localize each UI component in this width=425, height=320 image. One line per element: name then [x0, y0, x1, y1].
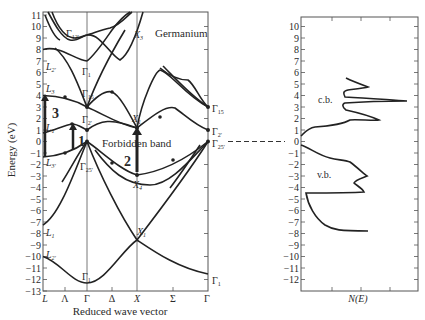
svg-text:Γ25': Γ25'	[80, 161, 93, 173]
svg-text:L2': L2'	[45, 61, 57, 73]
svg-text:−13: −13	[25, 286, 41, 297]
svg-text:1: 1	[78, 134, 85, 149]
band-x-tick-labels: L Λ Γ Δ X Σ Γ	[41, 293, 210, 304]
svg-text:Γ: Γ	[204, 293, 210, 304]
band-structure-panel: 11 10 9 8 7 6 5 4 3 2 1 0 −1 −2 −3 −4 −5…	[5, 10, 225, 318]
svg-text:1: 1	[36, 125, 41, 136]
band-y-axis-label: Energy (eV)	[5, 122, 18, 177]
svg-text:−4: −4	[30, 182, 41, 193]
dos-curves	[301, 78, 407, 231]
svg-text:L1: L1	[45, 122, 55, 134]
svg-text:−11: −11	[26, 263, 41, 274]
svg-text:−12: −12	[25, 274, 41, 285]
density-of-states-panel: 10 9 8 7 6 5 4 3 2 1 0 −1 −2 −3 −4 −5 −6…	[283, 17, 418, 305]
svg-text:Γ2': Γ2'	[212, 126, 222, 138]
svg-text:−12: −12	[283, 274, 299, 285]
svg-text:L2': L2'	[45, 249, 57, 261]
svg-text:−11: −11	[284, 263, 299, 274]
svg-text:Γ1: Γ1	[82, 271, 91, 283]
svg-text:Σ: Σ	[170, 293, 176, 304]
svg-text:Λ: Λ	[61, 293, 69, 304]
svg-text:6: 6	[294, 67, 299, 78]
svg-text:9: 9	[294, 33, 299, 44]
svg-text:−2: −2	[30, 159, 41, 170]
band-x-axis-label: Reduced wave vector	[73, 305, 168, 317]
svg-text:−2: −2	[288, 159, 299, 170]
svg-text:L3': L3'	[45, 157, 57, 169]
svg-text:5: 5	[36, 79, 41, 90]
svg-text:−10: −10	[25, 251, 41, 262]
svg-text:−9: −9	[288, 240, 299, 251]
svg-text:3: 3	[294, 102, 299, 113]
svg-text:7: 7	[36, 56, 41, 67]
svg-text:−8: −8	[288, 228, 299, 239]
conduction-band-label: c.b.	[318, 94, 332, 105]
svg-text:Γ: Γ	[84, 293, 90, 304]
svg-text:−1: −1	[288, 148, 299, 159]
svg-text:4: 4	[294, 90, 299, 101]
svg-text:Δ: Δ	[109, 293, 116, 304]
svg-text:Γ1: Γ1	[212, 275, 221, 287]
forbidden-band-label: Forbidden band	[102, 137, 172, 149]
svg-text:−3: −3	[30, 171, 41, 182]
svg-text:7: 7	[294, 56, 299, 67]
svg-text:X3: X3	[133, 29, 143, 41]
svg-text:L1: L1	[45, 227, 55, 239]
svg-text:X1: X1	[136, 226, 146, 238]
svg-text:X4: X4	[132, 179, 142, 191]
svg-text:3: 3	[52, 106, 59, 121]
svg-text:−7: −7	[30, 217, 41, 228]
svg-text:−6: −6	[30, 205, 41, 216]
svg-text:8: 8	[36, 44, 41, 55]
svg-text:11: 11	[31, 10, 41, 21]
band-y-tick-labels: 11 10 9 8 7 6 5 4 3 2 1 0 −1 −2 −3 −4 −5…	[25, 10, 41, 297]
svg-text:X: X	[133, 293, 141, 304]
svg-text:−1: −1	[30, 148, 41, 159]
dos-y-tick-labels: 10 9 8 7 6 5 4 3 2 1 0 −1 −2 −3 −4 −5 −6…	[283, 21, 299, 285]
svg-text:Γ15: Γ15	[82, 88, 94, 100]
svg-text:0: 0	[294, 136, 299, 147]
svg-text:−7: −7	[288, 217, 299, 228]
svg-text:6: 6	[36, 67, 41, 78]
svg-text:10: 10	[289, 21, 299, 32]
svg-text:Γ1: Γ1	[82, 66, 91, 78]
svg-text:−10: −10	[283, 251, 299, 262]
svg-text:−5: −5	[288, 194, 299, 205]
svg-text:0: 0	[36, 136, 41, 147]
svg-text:Γ2': Γ2'	[82, 114, 92, 126]
svg-text:10: 10	[31, 21, 41, 32]
svg-text:L3: L3	[45, 83, 55, 95]
svg-text:−9: −9	[30, 240, 41, 251]
svg-text:5: 5	[294, 79, 299, 90]
svg-text:−3: −3	[288, 171, 299, 182]
band-y-ticks	[43, 15, 208, 291]
svg-text:2: 2	[294, 113, 299, 124]
svg-text:8: 8	[294, 44, 299, 55]
svg-text:−6: −6	[288, 205, 299, 216]
material-title: Germanium	[155, 27, 208, 39]
svg-text:−5: −5	[30, 194, 41, 205]
svg-text:Γ25': Γ25'	[212, 138, 225, 150]
svg-text:−8: −8	[30, 228, 41, 239]
svg-text:2: 2	[36, 113, 41, 124]
band-x-ticks	[65, 287, 173, 291]
svg-text:L: L	[41, 293, 48, 304]
svg-text:Γ12': Γ12'	[66, 28, 79, 40]
svg-text:4: 4	[36, 90, 41, 101]
valence-band-label: v.b.	[317, 169, 331, 180]
dos-x-axis-label: N(E)	[347, 293, 368, 305]
svg-text:1: 1	[294, 125, 299, 136]
svg-text:−4: −4	[288, 182, 299, 193]
svg-text:Γ15: Γ15	[212, 103, 224, 115]
svg-text:9: 9	[36, 33, 41, 44]
svg-text:3: 3	[36, 102, 41, 113]
germanium-band-structure-figure: 11 10 9 8 7 6 5 4 3 2 1 0 −1 −2 −3 −4 −5…	[0, 0, 425, 320]
svg-text:2: 2	[124, 154, 131, 169]
